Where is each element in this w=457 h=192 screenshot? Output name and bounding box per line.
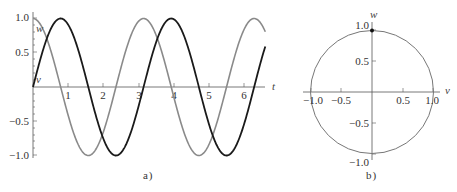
figure: 1.0 0.5 −0.5 −1.0 1 2 3 4 5 6 t w v a ) … xyxy=(0,0,457,192)
v-tick-label: −0.5 xyxy=(331,94,351,106)
w-tick-label: 0.5 xyxy=(355,55,369,67)
v-tick-label: 1.0 xyxy=(425,94,439,106)
panel-b-caption: b ) xyxy=(366,169,376,182)
x-tick-label: 6 xyxy=(241,89,247,101)
v-tick-label: 0.5 xyxy=(396,94,410,106)
x-axis-ticks xyxy=(68,83,244,87)
x-tick-label: 2 xyxy=(100,89,106,101)
start-point-marker xyxy=(370,29,374,33)
y-tick-label: −0.5 xyxy=(9,115,29,127)
x-tick-label: 1 xyxy=(65,89,71,101)
w-tick-label: −1.0 xyxy=(349,156,369,168)
y-tick-label: −1.0 xyxy=(9,149,29,161)
y-tick-label: 1.0 xyxy=(15,11,29,23)
v-axis-label: v xyxy=(445,84,450,96)
v-tick-label: −1.0 xyxy=(303,94,323,106)
series-w-label: w xyxy=(36,22,44,34)
series-v-label: v xyxy=(36,73,41,85)
x-tick-label: 5 xyxy=(206,89,212,101)
x-axis-label: t xyxy=(272,80,276,92)
w-tick-label: −0.5 xyxy=(349,117,369,129)
panel-a-caption: a ) xyxy=(143,169,153,182)
y-tick-label: 0.5 xyxy=(15,46,29,58)
w-tick-label: 1.0 xyxy=(355,19,369,31)
panel-b: −1.0 −0.5 0.5 1.0 1.0 0.5 −0.5 −1.0 v w … xyxy=(303,8,450,182)
panel-a: 1.0 0.5 −0.5 −1.0 1 2 3 4 5 6 t w v a ) xyxy=(9,11,276,182)
w-axis-label: w xyxy=(370,8,378,20)
